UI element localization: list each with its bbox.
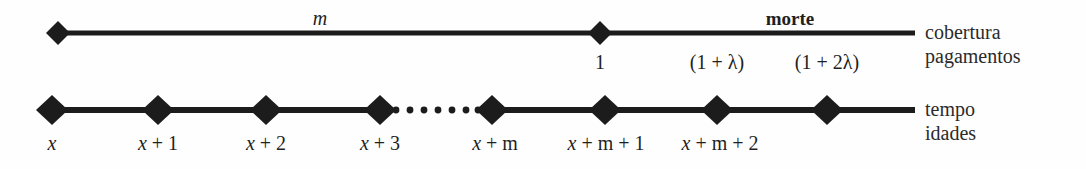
- time-label-xm2: x + m + 2: [681, 133, 758, 153]
- payment-label-2: (1 + λ): [690, 52, 744, 72]
- coverage-right-label-2: pagamentos: [925, 46, 1021, 66]
- payment-label-3: (1 + 2λ): [795, 52, 859, 72]
- time-label-x1: x + 1: [138, 133, 178, 153]
- time-marker-xm2: [701, 95, 733, 125]
- coverage-marker-start: [46, 21, 70, 45]
- actuarial-timeline-figure: m morte cobertura pagamentos 1 (1 + λ) (…: [0, 0, 1086, 169]
- time-marker-xm1: [589, 95, 621, 125]
- time-right-label-1: tempo: [925, 99, 975, 119]
- time-marker-x3: [364, 95, 396, 125]
- coverage-span-label: m: [313, 8, 327, 28]
- time-marker-x2: [250, 95, 282, 125]
- coverage-right-label-1: cobertura: [925, 22, 1001, 42]
- time-marker-xm3: [811, 95, 843, 125]
- time-label-x3: x + 3: [360, 133, 400, 153]
- time-label-xm1: x + m + 1: [567, 133, 644, 153]
- payment-label-1: 1: [595, 52, 605, 72]
- time-label-x: x: [48, 133, 57, 153]
- coverage-marker-death: [588, 21, 612, 45]
- time-marker-xm: [476, 95, 508, 125]
- time-right-label-2: idades: [925, 123, 976, 143]
- time-label-xm: x + m: [472, 133, 518, 153]
- time-marker-x1: [142, 95, 174, 125]
- time-label-x2: x + 2: [246, 133, 286, 153]
- time-marker-x: [36, 95, 68, 125]
- death-event-label: morte: [766, 9, 815, 28]
